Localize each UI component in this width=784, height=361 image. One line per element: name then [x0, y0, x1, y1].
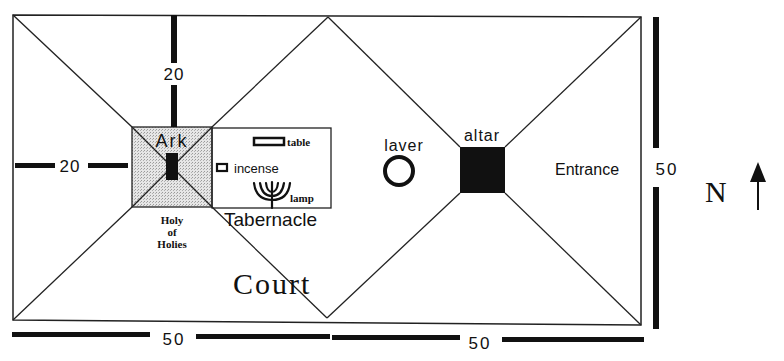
- laver-label: laver: [384, 137, 424, 154]
- altar-label: altar: [464, 127, 500, 144]
- tabernacle-court-diagram: Ark table incense lamp Holy of Holies Ta…: [0, 0, 784, 361]
- table-icon: [254, 138, 284, 145]
- entrance-label: Entrance: [555, 161, 619, 178]
- incense-icon: [217, 164, 227, 171]
- holy-of-holies-label-1: Holy: [161, 214, 184, 226]
- ark-icon: [166, 153, 178, 180]
- dimension-bars: [12, 15, 659, 342]
- holy-of-holies-label-3: Holies: [157, 238, 187, 250]
- court-diagonals: [13, 15, 641, 325]
- dimension-bottom-left: 50: [163, 330, 186, 349]
- north-arrow-icon: [750, 162, 766, 210]
- altar-icon: [460, 147, 505, 193]
- dimension-left-horizontal: 20: [60, 157, 81, 176]
- holy-of-holies-label-2: of: [167, 226, 177, 238]
- dimension-bottom-right: 50: [469, 334, 492, 353]
- court-boundary: [13, 15, 641, 325]
- dimension-top-vertical: 20: [164, 65, 185, 84]
- laver-icon: [385, 157, 413, 185]
- ark-label: Ark: [156, 131, 189, 151]
- lamp-label: lamp: [290, 192, 314, 204]
- north-label: N: [705, 175, 727, 208]
- court-label: Court: [233, 267, 311, 300]
- incense-label: incense: [234, 161, 279, 176]
- dimension-right-side: 50: [656, 160, 679, 179]
- tabernacle-label: Tabernacle: [224, 209, 317, 230]
- table-label: table: [287, 136, 310, 148]
- lamp-icon: [254, 182, 290, 208]
